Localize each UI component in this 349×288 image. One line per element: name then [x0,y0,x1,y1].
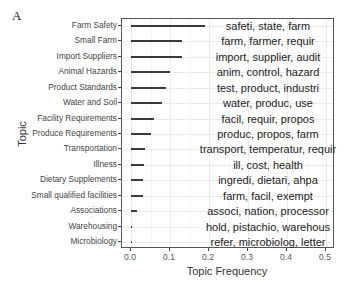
y-tick-label: Water and Soil [63,97,117,107]
y-tick [118,87,121,88]
y-tick [118,210,121,211]
y-tick-label: Small Farm [75,35,117,45]
topic-terms-label: test, product, industri [217,82,319,94]
topic-terms-label: transport, temperatur, requir [200,143,336,155]
y-tick [118,40,121,41]
y-tick-label: Import Suppliers [57,51,117,61]
y-tick [118,148,121,149]
panel-label: A [12,8,21,24]
gridline-vertical [170,19,171,247]
topic-terms-label: hold, pistachio, warehous [206,221,330,233]
x-tick [286,248,287,251]
topic-terms-label: farm, farmer, requir [221,35,315,47]
topic-terms-label: anim, control, hazard [217,66,320,78]
y-tick [118,25,121,26]
y-tick [118,102,121,103]
x-tick [247,248,248,251]
topic-terms-label: facil, requir, propos [222,113,315,125]
x-axis-title: Topic Frequency [187,265,268,277]
topic-terms-label: farm, facil, exempt [223,190,313,202]
y-tick-label: Facility Requirements [37,113,117,123]
topic-terms-label: water, produc, use [223,97,313,109]
x-tick [169,248,170,251]
y-tick [118,241,121,242]
y-tick-label: Associations [70,205,117,215]
y-tick [118,133,121,134]
y-axis-title: Topic [16,121,28,147]
topic-terms-label: ill, cost, health [233,159,303,171]
bar [131,148,145,150]
y-tick-label: Microbiology [70,236,117,246]
topic-terms-label: safeti, state, farm [226,20,310,32]
y-tick [118,118,121,119]
y-tick-label: Transportation [64,143,117,153]
bar [131,25,205,27]
bar [131,71,170,73]
topic-terms-label: refer, microbiolog, letter [211,236,326,248]
x-tick-label: 0.3 [241,252,253,262]
bar [131,87,166,89]
bar [131,102,162,104]
x-tick-label: 0.0 [124,252,136,262]
y-tick-label: Animal Hazards [58,66,117,76]
y-tick [118,71,121,72]
bar [131,133,151,135]
plot-panel: safeti, state, farmfarm, farmer, requiri… [121,18,334,248]
bar [131,241,132,243]
bar [131,56,182,58]
x-tick [325,248,326,251]
y-tick [118,195,121,196]
gridline-vertical [151,19,152,247]
y-tick-label: Illness [93,159,117,169]
bar [131,118,154,120]
y-tick [118,56,121,57]
bar [131,210,137,212]
y-tick-label: Warehousing [68,221,117,231]
y-tick-label: Small qualified facilities [31,190,117,200]
y-tick-label: Farm Safety [72,20,117,30]
x-tick-label: 0.5 [319,252,331,262]
y-tick-label: Produce Requirements [32,128,117,138]
y-tick-label: Product Standards [48,82,117,92]
topic-terms-label: import, supplier, audit [216,51,321,63]
topic-terms-label: associ, nation, processor [207,205,329,217]
y-tick-label: Dietary Supplements [40,174,117,184]
topic-terms-label: produc, propos, farm [217,128,319,140]
y-tick [118,164,121,165]
bar [131,164,144,166]
bar [131,40,182,42]
gridline-vertical [190,19,191,247]
y-tick [118,179,121,180]
x-tick-label: 0.2 [202,252,214,262]
x-tick-label: 0.4 [280,252,292,262]
x-tick-label: 0.1 [163,252,175,262]
topic-terms-label: ingredi, dietari, ahpa [218,174,318,186]
bar [131,179,143,181]
bar [131,226,132,228]
x-tick [130,248,131,251]
x-tick [208,248,209,251]
bar [131,195,143,197]
y-tick [118,226,121,227]
